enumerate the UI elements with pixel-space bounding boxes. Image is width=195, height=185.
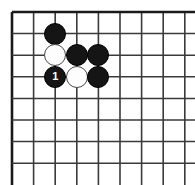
white-stone [66, 66, 88, 88]
black-stone [66, 44, 88, 66]
black-stone: 1 [44, 66, 66, 88]
go-board-diagram: 1 [0, 0, 195, 185]
stone-move-number: 1 [52, 71, 58, 82]
black-stone [44, 23, 66, 45]
go-board-grid [0, 0, 195, 185]
